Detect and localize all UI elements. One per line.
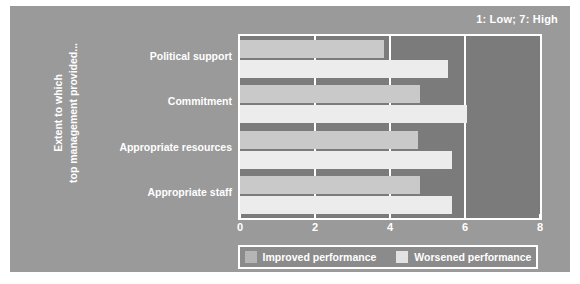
bar-worsened [240, 60, 448, 78]
x-tick-label: 0 [225, 221, 255, 233]
bar-improved [240, 131, 418, 149]
legend-label: Worsened performance [414, 251, 531, 263]
x-tick-mark-4 [389, 214, 391, 219]
legend-item: Worsened performance [396, 251, 531, 263]
category-label: Commitment [72, 95, 232, 107]
x-tick-label: 2 [300, 221, 330, 233]
category-label: Political support [72, 50, 232, 62]
x-tick-label: 4 [375, 221, 405, 233]
chart-legend: Improved performanceWorsened performance [238, 245, 538, 269]
x-tick-mark-2 [314, 214, 316, 219]
chart-panel: 1: Low; 7: High Extent to which top mana… [10, 6, 570, 272]
scale-note: 1: Low; 7: High [476, 13, 558, 25]
bar-worsened [240, 105, 467, 123]
x-tick-mark-6 [464, 214, 466, 219]
legend-label: Improved performance [263, 251, 377, 263]
bar-improved [240, 40, 384, 58]
y-axis-title-line-1: Extent to which [51, 74, 66, 152]
category-label: Appropriate staff [72, 186, 232, 198]
x-tick-label: 6 [450, 221, 480, 233]
bar-improved [240, 85, 420, 103]
x-tick-mark-8 [539, 214, 541, 219]
x-tick-mark-0 [239, 214, 241, 219]
gridline-x-6 [464, 36, 466, 218]
x-axis: 02468 [238, 218, 542, 236]
plot-area [238, 34, 542, 220]
legend-swatch-icon [396, 251, 408, 263]
bar-improved [240, 176, 420, 194]
legend-swatch-icon [245, 251, 257, 263]
legend-item: Improved performance [245, 251, 377, 263]
bar-worsened [240, 196, 452, 214]
category-axis-labels: Political supportCommitmentAppropriate r… [68, 34, 232, 216]
figure-root: 1: Low; 7: High Extent to which top mana… [0, 0, 580, 284]
category-label: Appropriate resources [72, 141, 232, 153]
bar-worsened [240, 151, 452, 169]
x-tick-label: 8 [525, 221, 555, 233]
